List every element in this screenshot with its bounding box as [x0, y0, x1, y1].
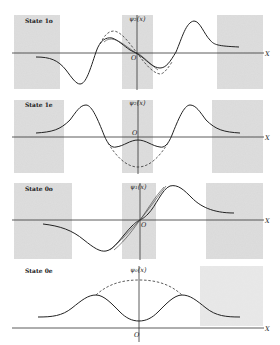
panel-state-1o: State 1o ψ₂(x) O X — [12, 15, 270, 90]
state-label: State 0o — [25, 185, 53, 192]
x-axis-label: X — [264, 50, 270, 58]
state-label: State 0e — [25, 267, 53, 274]
psi-label: ψ₂(x) — [129, 15, 146, 23]
x-axis-label: X — [264, 325, 270, 333]
shaded-regions — [14, 15, 263, 89]
panel-state-0e: State 0e ψ₀(x) O X — [12, 266, 270, 342]
origin-label: O — [131, 54, 137, 62]
origin-label: O — [141, 221, 147, 229]
x-axis-label: X — [264, 134, 270, 142]
wavefunction-figure: State 1o ψ₂(x) O X State 1e ψ₂(x) O X — [0, 0, 280, 345]
panel-state-0o: State 0o ψ₁(x) O X — [12, 183, 270, 260]
psi-label: ψ₁(x) — [130, 183, 147, 191]
x-axis-label: X — [264, 217, 270, 225]
psi-label: ψ₀(x) — [130, 266, 147, 274]
state-label: State 1o — [25, 17, 53, 24]
panel-state-1e: State 1e ψ₂(x) O X — [12, 99, 270, 174]
shaded-regions — [14, 100, 263, 173]
psi-label: ψ₂(x) — [129, 99, 146, 107]
origin-label: O — [132, 129, 138, 137]
origin-label: O — [134, 331, 140, 339]
state-label: State 1e — [25, 101, 53, 108]
